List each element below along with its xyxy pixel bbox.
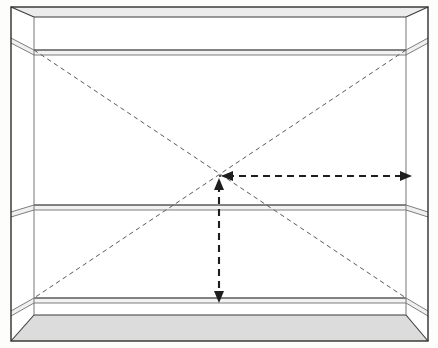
top-shelf-back-face (34, 50, 406, 55)
ceiling-plane (11, 7, 428, 17)
floor-plane (11, 315, 428, 341)
perspective-drawing-svg (0, 0, 438, 348)
perspective-drawing-canvas (0, 0, 438, 348)
vanishing-point-marker (219, 175, 221, 177)
left-wall-plane (11, 7, 34, 341)
right-wall-plane (406, 7, 428, 341)
